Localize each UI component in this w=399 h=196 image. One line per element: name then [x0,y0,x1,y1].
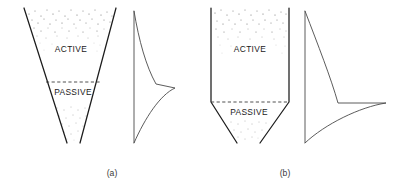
panel-a-left-wall [24,8,67,143]
panel-b-left-wall [211,8,237,143]
panel-a-passive-label: PASSIVE [54,87,92,97]
panel-b-caption: (b) [280,168,291,178]
panel-b-stress-profile-curve [305,11,386,143]
panel-b-passive-label: PASSIVE [230,107,268,117]
panel-a-caption: (a) [107,168,118,178]
figure-root: ACTIVE PASSIVE (a) [0,0,399,196]
panel-a-active-label: ACTIVE [55,44,87,54]
panel-b-right-wall [260,8,289,143]
panel-a-stress-profile-curve [134,11,175,143]
panel-a: ACTIVE PASSIVE (a) [24,8,175,178]
panel-b-active-label: ACTIVE [234,44,266,54]
panel-a-right-wall [80,8,116,143]
panel-b: ACTIVE PASSIVE (b) [211,8,386,178]
panel-b-passive-speckles [231,121,267,140]
hopper-stress-figure: ACTIVE PASSIVE (a) [0,0,399,196]
